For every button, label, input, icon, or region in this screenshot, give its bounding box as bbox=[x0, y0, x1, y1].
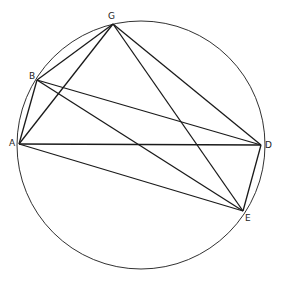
segment-BD bbox=[37, 80, 261, 145]
geometry-diagram: A B G D E bbox=[0, 0, 281, 281]
segment-GD bbox=[113, 24, 261, 145]
segment-BE bbox=[37, 80, 243, 211]
label-D: D bbox=[265, 141, 272, 150]
label-E: E bbox=[245, 214, 251, 223]
label-A: A bbox=[9, 139, 15, 148]
segment-AE bbox=[19, 144, 243, 211]
circle-diagram-svg bbox=[0, 0, 281, 281]
label-B: B bbox=[29, 72, 35, 81]
label-G: G bbox=[108, 12, 115, 21]
